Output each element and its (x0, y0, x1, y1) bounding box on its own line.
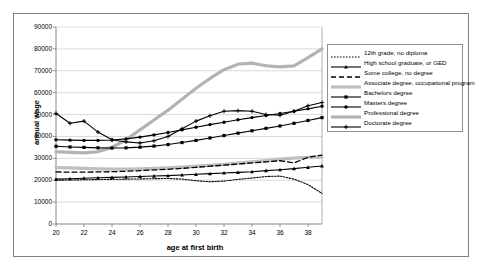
legend-swatch-icon (330, 78, 362, 88)
data-point-marker (82, 146, 85, 149)
plot-canvas (0, 0, 493, 276)
data-point-marker (320, 105, 323, 108)
data-point-marker (306, 119, 309, 122)
data-point-marker (54, 145, 57, 148)
data-point-marker (166, 131, 169, 134)
data-point-marker (236, 132, 239, 135)
data-point-marker (320, 116, 323, 119)
data-point-marker (222, 134, 225, 137)
legend-label: Some college, no degree (362, 68, 433, 78)
legend-swatch-icon (330, 98, 362, 108)
data-point-marker (96, 146, 99, 149)
data-point-marker (264, 127, 267, 130)
legend-swatch-icon (330, 68, 362, 78)
data-point-marker (96, 139, 99, 142)
data-point-marker (208, 136, 211, 139)
data-point-marker (180, 141, 183, 144)
data-point-marker (166, 143, 169, 146)
data-point-marker (278, 124, 281, 127)
chart-figure: annual wage age at first birth 010000200… (0, 0, 493, 276)
data-point-marker (110, 146, 113, 149)
data-point-marker (152, 133, 155, 136)
data-point-marker (292, 122, 295, 125)
legend-item: Associate degree, occupational program (330, 78, 460, 88)
data-point-marker (138, 146, 141, 149)
legend-item: Bachelors degree (330, 88, 460, 98)
data-point-marker (250, 116, 253, 119)
legend-swatch-icon (330, 108, 362, 118)
legend-swatch-icon (330, 88, 362, 98)
chart-legend: 12th grade, no diplomaHigh school gradua… (327, 44, 463, 132)
legend-item: Some college, no degree (330, 68, 460, 78)
legend-swatch-icon (330, 58, 362, 68)
legend-label: 12th grade, no diploma (362, 48, 427, 58)
legend-label: Masters degree (362, 98, 407, 108)
data-point-marker (124, 146, 127, 149)
data-point-marker (138, 135, 141, 138)
legend-label: Doctorate degree (362, 118, 412, 128)
legend-item: High school graduate, or GED (330, 58, 460, 68)
legend-item: 12th grade, no diploma (330, 48, 460, 58)
legend-item: Masters degree (330, 98, 460, 108)
data-point-marker (236, 118, 239, 121)
data-point-marker (152, 144, 155, 147)
data-point-marker (194, 139, 197, 142)
data-point-marker (68, 145, 71, 148)
legend-label: Associate degree, occupational program (362, 78, 475, 88)
legend-label: Professional degree (362, 108, 419, 118)
data-point-marker (250, 129, 253, 132)
legend-swatch-icon (330, 48, 362, 58)
data-point-marker (68, 138, 71, 141)
legend-label: Bachelors degree (362, 88, 413, 98)
data-point-marker (222, 121, 225, 124)
legend-item: Doctorate degree (330, 118, 460, 128)
data-point-marker (82, 139, 85, 142)
data-point-marker (54, 138, 57, 141)
data-point-marker (208, 123, 211, 126)
legend-item: Professional degree (330, 108, 460, 118)
legend-swatch-icon (330, 118, 362, 128)
data-point-marker (194, 126, 197, 129)
legend-label: High school graduate, or GED (362, 58, 447, 68)
